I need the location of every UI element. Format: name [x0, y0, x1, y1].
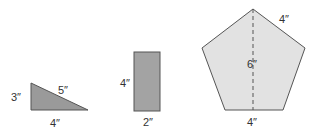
pentagon-side-label: 4″ — [279, 13, 289, 25]
pentagon-base-label: 4″ — [247, 116, 257, 128]
pentagon-height-label: 6″ — [247, 58, 257, 70]
right-triangle: 3″ 5″ 4″ — [11, 83, 88, 129]
rectangle-width-label: 2″ — [143, 116, 153, 128]
triangle-hypotenuse-label: 5″ — [58, 84, 68, 96]
rectangle-shape — [134, 52, 160, 111]
triangle-height-label: 3″ — [11, 91, 21, 103]
rectangle: 4″ 2″ — [120, 52, 160, 128]
geometry-figure: 3″ 5″ 4″ 4″ 2″ 4″ 6″ 4″ — [0, 0, 318, 131]
shapes-diagram: 3″ 5″ 4″ 4″ 2″ 4″ 6″ 4″ — [0, 0, 318, 131]
pentagon: 4″ 6″ 4″ — [202, 9, 305, 128]
rectangle-height-label: 4″ — [120, 77, 130, 89]
triangle-base-label: 4″ — [50, 117, 60, 129]
